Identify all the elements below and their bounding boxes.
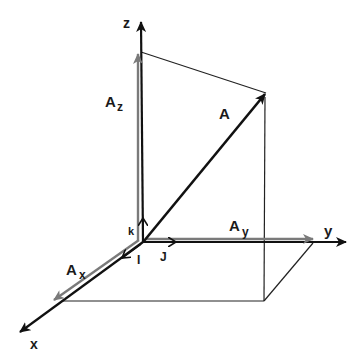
svg-text:z: z: [117, 100, 123, 114]
vector-a-arrow: [144, 94, 265, 241]
svg-text:x: x: [79, 268, 86, 282]
guide-vertical-line: [264, 97, 265, 301]
k-unit-label: k: [128, 225, 135, 237]
components: [54, 54, 313, 300]
guide-top-line: [141, 52, 266, 93]
guide-slant-line: [264, 243, 313, 301]
ay-label: A y: [229, 217, 249, 239]
x-axis-label: x: [30, 336, 38, 352]
vector-diagram: z y x A A z A y A x k I J: [0, 0, 364, 355]
ax-label: A x: [66, 261, 86, 282]
svg-text:A: A: [105, 93, 116, 110]
az-label: A z: [105, 93, 123, 114]
axes: [20, 22, 346, 332]
svg-text:A: A: [66, 261, 77, 278]
vector-a-label: A: [219, 105, 230, 122]
svg-text:A: A: [229, 217, 240, 234]
projection-guides: [62, 52, 313, 301]
y-axis-label: y: [324, 222, 333, 239]
j-unit-label: J: [160, 250, 167, 264]
svg-text:y: y: [242, 225, 249, 239]
z-axis: [141, 22, 143, 242]
i-unit-label: I: [137, 253, 140, 267]
z-axis-label: z: [123, 15, 130, 31]
